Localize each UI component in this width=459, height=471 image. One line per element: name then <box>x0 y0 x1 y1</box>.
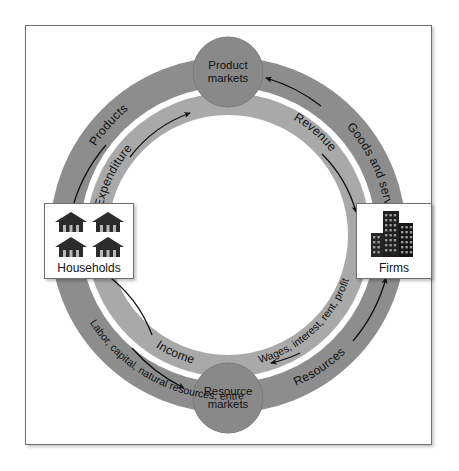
diagram-stage: Product markets Resource markets Product… <box>26 26 431 444</box>
house-icon <box>54 235 88 259</box>
houses-icon-grid <box>50 210 129 259</box>
diagram-panel: Product markets Resource markets Product… <box>25 25 432 445</box>
product-markets-label-line1: Product <box>208 59 248 71</box>
households-node[interactable]: Households <box>44 203 134 279</box>
firms-label: Firms <box>379 261 409 275</box>
firms-node[interactable]: Firms <box>356 203 432 279</box>
product-markets-label-line2: markets <box>208 72 249 84</box>
house-icon <box>91 235 125 259</box>
house-icon <box>54 210 88 234</box>
buildings-icon <box>366 209 422 259</box>
house-icon <box>91 210 125 234</box>
households-label: Households <box>57 261 120 275</box>
